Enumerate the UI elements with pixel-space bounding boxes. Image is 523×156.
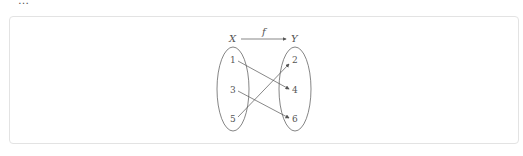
domain-label: X <box>228 33 237 44</box>
domain-element-3: 3 <box>230 85 236 95</box>
mapping-1-to-4 <box>238 61 289 89</box>
codomain-element-4: 4 <box>292 85 298 95</box>
domain-element-1: 1 <box>230 55 236 65</box>
codomain-element-2: 2 <box>292 55 298 65</box>
domain-element-5: 5 <box>230 114 236 124</box>
codomain-element-6: 6 <box>292 114 298 124</box>
codomain-label: Y <box>291 33 299 44</box>
function-mapping-diagram: X Y f 1 3 5 2 4 6 <box>0 0 523 156</box>
function-label: f <box>261 26 268 37</box>
mapping-5-to-2 <box>238 64 289 117</box>
